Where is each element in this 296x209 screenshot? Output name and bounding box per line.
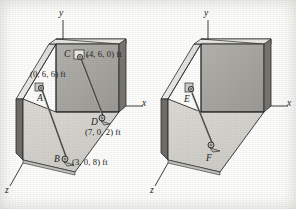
figure-container: y x z C (4, 6, 0) ft (0, 6, 6) ft A D (7… bbox=[0, 0, 296, 209]
left-z-axis-label: z bbox=[5, 186, 9, 196]
right-wall-outer-skin bbox=[161, 44, 201, 99]
left-point-b-label: B bbox=[54, 155, 60, 165]
left-x-axis-label: x bbox=[142, 99, 146, 109]
left-point-c-label: C bbox=[64, 50, 70, 60]
left-z-axis-line bbox=[10, 163, 23, 186]
right-wall-front-face bbox=[201, 44, 264, 112]
right-x-axis-label: x bbox=[287, 99, 291, 109]
right-panel-group bbox=[155, 20, 288, 186]
left-point-a-label: A bbox=[37, 94, 43, 104]
right-skin-inner-fold bbox=[168, 44, 201, 99]
right-y-axis-label: y bbox=[204, 9, 208, 19]
right-z-axis-label: z bbox=[150, 186, 154, 196]
right-z-axis-line bbox=[155, 163, 168, 186]
right-anchor-e bbox=[185, 83, 194, 92]
right-point-e-label: E bbox=[184, 95, 190, 105]
left-point-c-coordinate: (4, 6, 0) ft bbox=[86, 50, 122, 59]
left-y-axis-label: y bbox=[59, 9, 63, 19]
figure-illustration bbox=[0, 0, 296, 209]
left-point-d-coordinate: (7, 0, 2) ft bbox=[85, 128, 121, 137]
left-point-a-coordinate: (0, 6, 6) ft bbox=[30, 70, 66, 79]
right-point-f-label: F bbox=[206, 154, 212, 164]
left-point-b-coordinate: (3, 0, 8) ft bbox=[72, 158, 108, 167]
left-anchor-a bbox=[35, 83, 44, 91]
right-wall-right-edge bbox=[264, 39, 271, 112]
left-wall-outer-skin-bottom bbox=[16, 99, 23, 160]
right-wall-outer-skin-bottom bbox=[161, 99, 168, 160]
left-anchor-c bbox=[74, 50, 84, 60]
